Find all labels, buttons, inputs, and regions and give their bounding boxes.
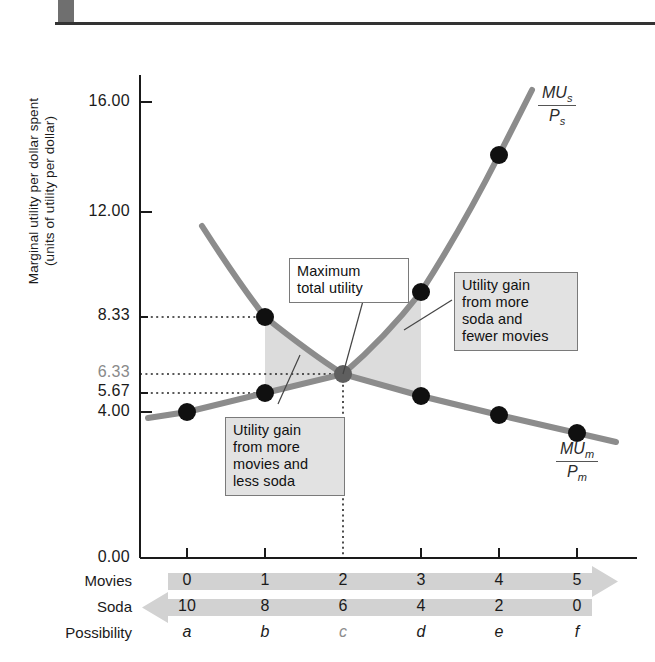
cell-possibility-c: c [330, 623, 356, 641]
band-soda [142, 592, 592, 623]
annotation-max-utility-line2: total utility [297, 280, 401, 297]
cell-possibility-f: f [564, 623, 590, 641]
annotation-gain-movies-line4: less soda [233, 473, 337, 490]
curve-label-movies-denominator: Pm [556, 461, 598, 483]
point-movies-b [256, 384, 274, 402]
y-tick-label-567: 5.67 [56, 382, 130, 400]
row-label-possibility: Possibility [20, 624, 132, 641]
y-tick-marks [140, 102, 152, 412]
cell-soda-0: 10 [174, 597, 200, 615]
annotation-gain-soda-line1: Utility gain [462, 277, 570, 294]
annotation-gain-soda: Utility gain from more soda and fewer mo… [454, 272, 578, 351]
annotation-gain-soda-line3: soda and [462, 311, 570, 328]
cell-soda-3: 4 [408, 597, 434, 615]
x-tick-marks [187, 548, 577, 558]
y-tick-label-16: 16.00 [56, 92, 130, 110]
point-movies-a [178, 403, 196, 421]
cell-possibility-d: d [408, 623, 434, 641]
y-axis-title: Marginal utility per dollar spent (units… [26, 61, 58, 321]
cell-movies-4: 4 [486, 571, 512, 589]
cell-movies-3: 3 [408, 571, 434, 589]
cell-soda-1: 8 [252, 597, 278, 615]
cell-possibility-e: e [486, 623, 512, 641]
annotation-max-utility-line1: Maximum [297, 263, 401, 280]
cell-soda-4: 2 [486, 597, 512, 615]
y-tick-label-0: 0.00 [56, 548, 130, 566]
cell-movies-2: 2 [330, 571, 356, 589]
annotation-gain-soda-line4: fewer movies [462, 328, 570, 345]
y-axis-title-line1: Marginal utility per dollar spent [26, 98, 41, 284]
curve-movies [148, 374, 616, 442]
annotation-gain-soda-line2: from more [462, 294, 570, 311]
row-label-soda: Soda [20, 598, 132, 615]
annotation-gain-movies-line1: Utility gain [233, 422, 337, 439]
curve-label-soda-numerator: MUs [538, 84, 576, 105]
point-soda-b [256, 308, 274, 326]
cell-soda-5: 0 [564, 597, 590, 615]
annotation-gain-movies-line3: movies and [233, 456, 337, 473]
curve-label-soda: MUs Ps [538, 84, 576, 127]
curve-label-movies: MUm Pm [556, 440, 598, 483]
annotation-max-utility: Maximum total utility [289, 258, 409, 303]
annotation-gain-movies-line2: from more [233, 439, 337, 456]
point-soda-d [412, 283, 430, 301]
cell-possibility-b: b [252, 623, 278, 641]
curve-label-soda-denominator: Ps [538, 105, 576, 127]
annotation-gain-movies: Utility gain from more movies and less s… [225, 417, 345, 496]
point-movies-e [490, 406, 508, 424]
point-movies-d [412, 387, 430, 405]
row-label-movies: Movies [20, 572, 132, 589]
y-tick-label-633: 6.33 [56, 363, 130, 381]
cell-possibility-a: a [174, 623, 200, 641]
cell-soda-2: 6 [330, 597, 356, 615]
cell-movies-1: 1 [252, 571, 278, 589]
cell-movies-0: 0 [174, 571, 200, 589]
y-tick-label-12: 12.00 [56, 202, 130, 220]
cell-movies-5: 5 [564, 571, 590, 589]
band-movies [168, 566, 618, 597]
point-soda-e [490, 146, 508, 164]
curve-label-movies-numerator: MUm [556, 440, 598, 461]
y-tick-label-4: 4.00 [56, 402, 130, 420]
y-tick-label-833: 8.33 [56, 306, 130, 324]
